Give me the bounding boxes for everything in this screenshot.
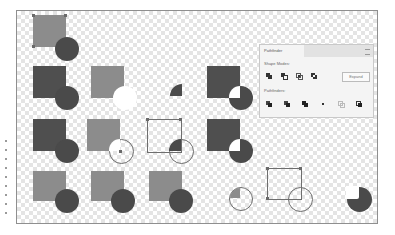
trim-icon[interactable] xyxy=(284,101,290,107)
crop-icon[interactable] xyxy=(320,101,326,107)
unite-icon[interactable] xyxy=(266,73,272,79)
shape-modes-label: Shape Modes: xyxy=(264,61,290,66)
expand-button[interactable]: Expand xyxy=(342,72,370,82)
minus-back-icon[interactable] xyxy=(356,101,362,107)
tab-pathfinder[interactable]: Pathfinder xyxy=(260,45,304,57)
margin-marks xyxy=(2,140,10,220)
outline-icon[interactable] xyxy=(338,101,344,107)
pathfinder-panel[interactable]: Pathfinder Shape Modes: Expand Pathfinde… xyxy=(259,44,374,118)
divide-icon[interactable] xyxy=(266,101,272,107)
pathfinders-label: Pathfinders: xyxy=(264,88,285,93)
exclude-icon[interactable] xyxy=(311,73,317,79)
panel-menu-icon[interactable] xyxy=(365,49,370,55)
panel-header[interactable]: Pathfinder xyxy=(260,45,373,57)
minus-front-icon[interactable] xyxy=(281,73,287,79)
merge-icon[interactable] xyxy=(302,101,308,107)
intersect-icon[interactable] xyxy=(296,73,302,79)
